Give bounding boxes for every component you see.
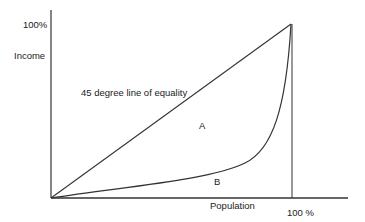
- region-b-label: B: [214, 177, 220, 187]
- region-a-label: A: [199, 121, 205, 131]
- x-axis-title: Population: [210, 201, 255, 211]
- y-axis-title: Income: [14, 51, 45, 61]
- lorenz-curve-diagram: [0, 0, 365, 222]
- equality-line-label: 45 degree line of equality: [81, 88, 187, 98]
- equality-line: [51, 24, 291, 198]
- x-axis-max-label: 100 %: [287, 208, 314, 218]
- y-axis-max-label: 100%: [23, 20, 47, 30]
